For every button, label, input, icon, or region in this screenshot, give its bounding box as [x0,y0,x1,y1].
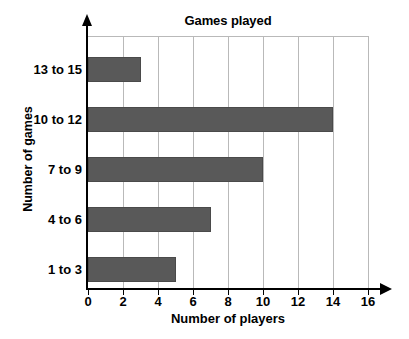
x-axis-tick-label: 6 [178,294,208,309]
bar [88,157,263,182]
x-axis-tick-label: 16 [353,294,383,309]
grid-line [263,36,264,289]
y-axis-line [86,24,88,290]
bar [88,107,333,132]
x-axis-line [86,288,382,290]
y-axis-category-label: 4 to 6 [0,212,82,227]
bar-chart-figure: Games played Number of games Number of p… [0,0,409,339]
y-axis-arrow-icon [82,14,92,26]
bar [88,57,141,82]
grid-line [298,36,299,289]
bar [88,257,176,282]
x-axis-tick-label: 14 [318,294,348,309]
x-axis-title: Number of players [88,311,368,326]
grid-line [368,36,369,289]
y-axis-title: Number of games [21,89,35,229]
x-axis-tick-label: 8 [213,294,243,309]
x-axis-tick-label: 2 [108,294,138,309]
y-axis-category-label: 13 to 15 [0,62,82,77]
y-axis-category-label: 1 to 3 [0,262,82,277]
x-axis-tick-label: 12 [283,294,313,309]
x-axis-tick-label: 0 [73,294,103,309]
x-axis-tick-label: 4 [143,294,173,309]
chart-title: Games played [88,13,368,28]
x-axis-tick-label: 10 [248,294,278,309]
plot-area [88,36,368,289]
y-axis-category-label: 10 to 12 [0,112,82,127]
y-axis-category-label: 7 to 9 [0,162,82,177]
bar [88,207,211,232]
grid-line [333,36,334,289]
